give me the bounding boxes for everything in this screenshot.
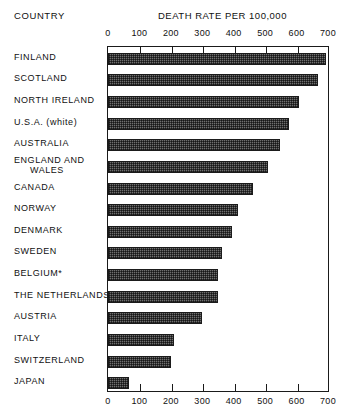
category-label-line1: AUSTRALIA (14, 138, 69, 148)
category-label-belgium: BELGIUM* (14, 268, 62, 278)
x-axis-tick-label-top: 600 (289, 28, 305, 38)
bar[interactable] (108, 161, 268, 173)
category-label-line1: U.S.A. (white) (14, 117, 77, 127)
x-axis-tick-label-bottom: 700 (320, 396, 336, 406)
category-label-line1: AUSTRIA (14, 311, 57, 321)
bar-row (108, 269, 328, 281)
bar[interactable] (108, 204, 238, 216)
bar[interactable] (108, 291, 218, 303)
category-label-the-netherlands: THE NETHERLANDS (14, 290, 110, 300)
x-axis-tick-label-top: 400 (226, 28, 242, 38)
category-label-scotland: SCOTLAND (14, 73, 67, 83)
x-axis-tick-label-bottom: 100 (131, 396, 147, 406)
bar-row (108, 74, 328, 86)
bar[interactable] (108, 139, 280, 151)
category-label-line1: SWITZERLAND (14, 355, 85, 365)
category-label-line1: ITALY (14, 333, 40, 343)
x-axis-tick-label-top: 500 (257, 28, 273, 38)
category-label-line1: NORTH IRELAND (14, 95, 95, 105)
category-label-line1: SCOTLAND (14, 73, 67, 83)
bar-row (108, 247, 328, 259)
bar-row (108, 312, 328, 324)
bar[interactable] (108, 269, 218, 281)
bar[interactable] (108, 53, 326, 65)
category-label-line1: DENMARK (14, 225, 63, 235)
bar[interactable] (108, 377, 129, 389)
category-label-australia: AUSTRALIA (14, 138, 69, 148)
category-label-england-and: ENGLAND ANDWALES (14, 155, 85, 175)
bar[interactable] (108, 74, 318, 86)
x-axis-tick-label-top: 700 (320, 28, 336, 38)
category-label-line1: CANADA (14, 182, 55, 192)
chart-figure: COUNTRY DEATH RATE PER 100,000 010020030… (0, 0, 345, 414)
x-axis-tick-label-top: 300 (194, 28, 210, 38)
category-label-u-s-a-white: U.S.A. (white) (14, 117, 77, 127)
bar-row (108, 377, 328, 389)
category-label-canada: CANADA (14, 182, 55, 192)
bar-row (108, 183, 328, 195)
x-axis-tick-label-bottom: 300 (194, 396, 210, 406)
bar[interactable] (108, 183, 253, 195)
category-label-line1: SWEDEN (14, 246, 57, 256)
category-label-italy: ITALY (14, 333, 40, 343)
x-axis-tick-label-top: 200 (163, 28, 179, 38)
bar-row (108, 334, 328, 346)
category-label-north-ireland: NORTH IRELAND (14, 95, 95, 105)
bar-row (108, 226, 328, 238)
bar-row (108, 118, 328, 130)
bar[interactable] (108, 247, 222, 259)
category-label-line1: FINLAND (14, 52, 56, 62)
category-label-norway: NORWAY (14, 203, 57, 213)
category-label-line1: BELGIUM* (14, 268, 62, 278)
country-column-header: COUNTRY (14, 10, 65, 21)
x-axis-tick-label-top: 0 (105, 28, 110, 38)
category-label-line1: THE NETHERLANDS (14, 290, 110, 300)
category-label-line2: WALES (14, 165, 85, 175)
category-label-line1: NORWAY (14, 203, 57, 213)
bar-row (108, 139, 328, 151)
x-axis-tick-label-bottom: 600 (289, 396, 305, 406)
category-label-austria: AUSTRIA (14, 311, 57, 321)
bar-row (108, 204, 328, 216)
category-label-denmark: DENMARK (14, 225, 63, 235)
bar-row (108, 96, 328, 108)
bar[interactable] (108, 356, 171, 368)
x-axis-tick-label-bottom: 500 (257, 396, 273, 406)
category-label-switzerland: SWITZERLAND (14, 355, 85, 365)
bar-row (108, 53, 328, 65)
plot-area (107, 46, 329, 392)
x-axis-tick-label-bottom: 400 (226, 396, 242, 406)
x-axis-tick-label-bottom: 0 (105, 396, 110, 406)
category-label-line1: ENGLAND AND (14, 155, 85, 165)
category-label-finland: FINLAND (14, 52, 56, 62)
bar[interactable] (108, 96, 299, 108)
bar-row (108, 356, 328, 368)
category-label-sweden: SWEDEN (14, 246, 57, 256)
bar-row (108, 291, 328, 303)
chart-title: DEATH RATE PER 100,000 (158, 10, 287, 21)
category-label-japan: JAPAN (14, 376, 45, 386)
bar[interactable] (108, 312, 202, 324)
bar[interactable] (108, 226, 232, 238)
bar[interactable] (108, 118, 289, 130)
bar[interactable] (108, 334, 174, 346)
bar-row (108, 161, 328, 173)
x-axis-tick-label-bottom: 200 (163, 396, 179, 406)
category-label-line1: JAPAN (14, 376, 45, 386)
x-axis-tick-label-top: 100 (131, 28, 147, 38)
